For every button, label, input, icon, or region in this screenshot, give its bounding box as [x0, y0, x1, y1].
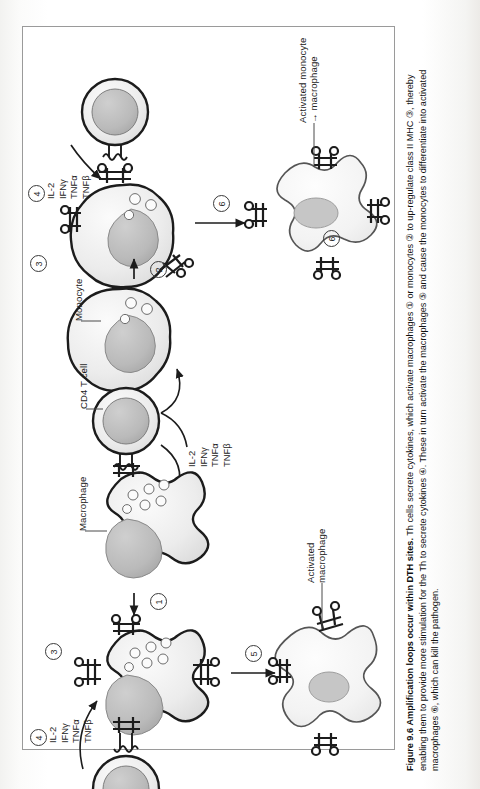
mhc2-activated-macrophage-b — [313, 602, 343, 631]
label-activated-macrophage: Activated macrophage — [305, 529, 328, 583]
mhc2-top-pair — [98, 164, 132, 183]
cytokine-item: TNFβ — [221, 443, 233, 467]
cytokine-item: TNFα — [70, 719, 82, 743]
step-number-five: 5 — [245, 645, 262, 662]
step-number-one: 1 — [150, 593, 167, 610]
label-monocyte: Monocyte — [73, 279, 84, 321]
cytokine-item: TNFα — [209, 443, 221, 467]
figure-border-box: IL-2 IFNγ TNFα TNFβ 4 3 6 6 Activated mo… — [22, 26, 395, 750]
cytokine-list-bottom: IL-2 IFNγ TNFα TNFβ — [47, 719, 93, 743]
arrow-cytokines-to-monocyte — [161, 369, 180, 413]
step-number-three-top: 3 — [30, 255, 47, 272]
mhc2-activated-macrophage-a — [269, 658, 291, 684]
cytokine-item: IFNγ — [59, 719, 71, 743]
cell-th-top — [82, 79, 148, 145]
mhc2-upregulated-left — [61, 206, 81, 233]
step-number-four-top: 4 — [28, 185, 45, 202]
arrow-cytokines-to-monocyte-top — [71, 145, 101, 179]
mhc2-activated-monocyte-c — [314, 257, 340, 279]
step-number-three-bottom: 3 — [45, 643, 62, 660]
cell-macrophage — [106, 472, 209, 578]
cytokine-item: IFNγ — [57, 175, 69, 199]
figure-title: Amplification loops occur within DTH sit… — [405, 538, 415, 725]
step-number-six-arrow: 6 — [213, 195, 230, 212]
cell-macrophage-upregulated — [106, 630, 209, 735]
mhc2-bottom-macrophage-top — [112, 615, 140, 635]
figure-caption: Figure 9.6 Amplification loops occur wit… — [404, 55, 442, 771]
cytokine-item: TNFβ — [80, 175, 92, 199]
step-number-two: 2 — [150, 261, 167, 278]
cytokine-item: IL-2 — [186, 443, 198, 467]
cytokine-item: IL-2 — [47, 719, 59, 743]
cytokine-list-middle: IL-2 IFNγ TNFα TNFβ — [186, 443, 232, 467]
mhc2-activated-monocyte-a — [245, 202, 267, 228]
cytokine-list-top: IL-2 IFNγ TNFα TNFβ — [45, 175, 91, 199]
cytokine-item: TNFα — [68, 175, 80, 199]
label-macrophage: Macrophage — [77, 477, 88, 531]
label-activated-monocyte: Activated monocyte → macrophage — [297, 37, 320, 123]
tcr-receptor-cd4 — [114, 454, 138, 470]
cell-cd4-t — [93, 388, 159, 454]
label-cd4-t-cell: CD4 T cell — [78, 364, 89, 409]
mhc2-activated-monocyte-d — [367, 198, 389, 224]
figure-number: Figure 9.6 — [405, 728, 415, 771]
mhc2-bottom-macrophage-left — [75, 658, 101, 686]
figure-page: IL-2 IFNγ TNFα TNFβ 4 3 6 6 Activated mo… — [0, 0, 480, 789]
cytokine-stem-upper — [161, 413, 187, 447]
mhc2-activated-monocyte-b — [312, 147, 338, 169]
step-number-four-bottom: 4 — [30, 729, 47, 746]
cytokine-item: IFNγ — [198, 443, 210, 467]
tcr-receptor-bottom — [114, 733, 138, 752]
cytokine-item: TNFβ — [82, 719, 94, 743]
step-number-six-cell: 6 — [323, 230, 340, 247]
tcr-receptor-top — [103, 145, 127, 160]
cytokine-item: IL-2 — [45, 175, 57, 199]
